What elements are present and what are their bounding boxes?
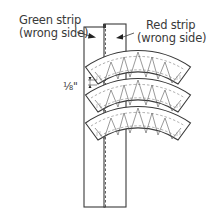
green-strip-label: Green strip (wrong side): [19, 14, 88, 40]
red-strip-label-line2: (wrong side): [137, 32, 206, 45]
red-strip-label: Red strip (wrong side): [137, 19, 206, 45]
green-strip-label-line2: (wrong side): [19, 27, 88, 40]
seam-allowance-label: ⅛": [63, 80, 78, 93]
